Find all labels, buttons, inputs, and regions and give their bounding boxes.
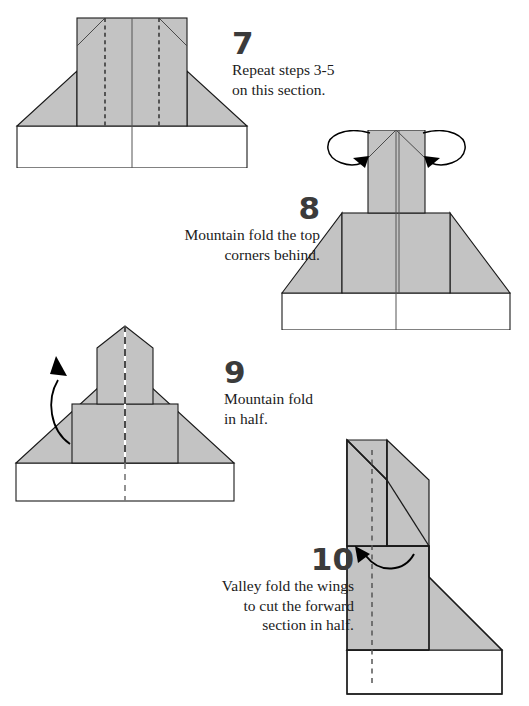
fold-arrow-head <box>50 356 67 376</box>
step-10-text: Valley fold the wings to cut the forward… <box>172 576 354 635</box>
left-wing <box>17 71 77 126</box>
step-8-text: Mountain fold the top corners behind. <box>118 225 320 264</box>
step-8-caption: 8 Mountain fold the top corners behind. <box>118 192 320 264</box>
step-7-diagram <box>2 8 262 172</box>
lower-band <box>347 650 502 694</box>
right-wing <box>450 213 510 293</box>
mountain-arrow-right-head <box>424 156 440 168</box>
step-8-number: 8 <box>118 192 320 224</box>
step-10-diagram <box>334 432 524 704</box>
step-9-number: 9 <box>224 356 364 388</box>
step-7-text: Repeat steps 3-5 on this section. <box>232 60 392 99</box>
step-10-caption: 10 Valley fold the wings to cut the forw… <box>172 543 354 635</box>
step-7-caption: 7 Repeat steps 3-5 on this section. <box>232 27 392 99</box>
instruction-sheet: 7 Repeat steps 3-5 on this section. <box>0 0 529 706</box>
step-10-number: 10 <box>172 543 354 575</box>
mountain-arrow-left-head <box>353 156 369 168</box>
step-9-caption: 9 Mountain fold in half. <box>224 356 364 428</box>
step-9-text: Mountain fold in half. <box>224 389 364 428</box>
step-7-number: 7 <box>232 27 392 59</box>
upper-wedge <box>387 440 429 546</box>
step-9-diagram <box>6 318 246 507</box>
